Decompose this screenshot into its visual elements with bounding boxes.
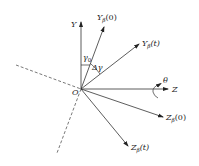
dashed-line-left: [16, 65, 81, 89]
y-axis-label: Y: [71, 20, 77, 29]
origin-label: O: [72, 88, 79, 97]
dashed-line-down: [57, 89, 81, 153]
theta-rotation-arc: [153, 84, 160, 98]
ybeta0-label: Yβ(0): [97, 13, 117, 24]
zbetat-label: Zβ(t): [130, 143, 149, 154]
z-axis-label: Z: [171, 85, 178, 94]
coordinate-diagram: O Y Yβ(0) Yβ(t) Z Zβ(0) Zβ(t) γ0 Δγ θ: [0, 0, 199, 166]
axis-zbeta-0: [81, 89, 163, 117]
delta-gamma-label: Δγ: [91, 63, 103, 72]
theta-label: θ: [163, 76, 168, 85]
ybetat-label: Yβ(t): [142, 39, 160, 50]
axis-zbeta-t: [81, 89, 128, 146]
gamma0-label: γ0: [83, 53, 92, 63]
zbeta0-label: Zβ(0): [165, 113, 186, 124]
